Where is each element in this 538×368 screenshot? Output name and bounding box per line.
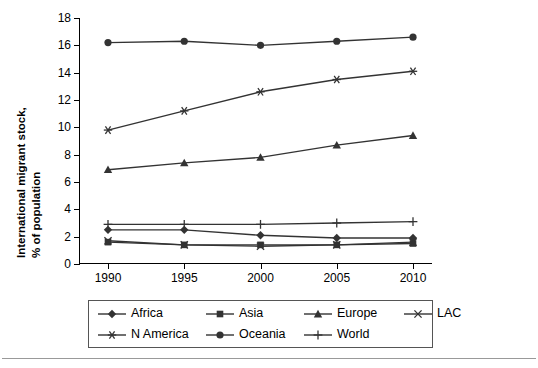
square-marker-icon xyxy=(257,242,264,249)
square-marker-icon xyxy=(410,240,417,247)
asterisk-marker-icon xyxy=(256,88,264,95)
legend-item-label: LAC xyxy=(437,307,461,320)
asterisk-marker-icon xyxy=(409,68,417,75)
square-marker-icon xyxy=(105,239,112,246)
y-axis-tick-label: 12 xyxy=(58,94,71,106)
plus-marker-icon xyxy=(409,217,418,226)
plus xyxy=(303,328,333,342)
y-axis-tick-label: 8 xyxy=(64,149,71,161)
circle-marker-icon xyxy=(181,38,188,45)
asterisk-marker-icon xyxy=(180,107,188,114)
diamond xyxy=(97,307,127,321)
cross-x xyxy=(403,307,433,321)
y-axis-tick-label: 16 xyxy=(58,39,71,51)
y-axis-tick-label: 14 xyxy=(58,67,71,79)
series-line xyxy=(108,136,413,170)
y-axis-tick-label: 2 xyxy=(64,231,71,243)
chart-figure: International migrant stock, % of popula… xyxy=(0,0,538,368)
diamond-marker-icon xyxy=(333,234,341,242)
asterisk-marker-icon xyxy=(333,76,341,83)
series-oceania xyxy=(104,34,416,49)
plus-marker-icon xyxy=(180,220,189,229)
y-axis-title: International migrant stock, % of popula… xyxy=(0,0,44,270)
legend-item-label: Africa xyxy=(131,307,163,320)
series-world xyxy=(104,217,418,229)
series-layer xyxy=(80,18,433,264)
y-axis-tick xyxy=(74,264,80,265)
legend-item-label: Oceania xyxy=(239,328,286,341)
y-axis-tick-label: 6 xyxy=(64,176,71,188)
legend-item-label: Asia xyxy=(239,307,263,320)
x-axis-tick-label: 2005 xyxy=(323,272,350,284)
y-axis-title-line-1: International migrant stock, xyxy=(14,107,29,258)
diamond-marker-icon xyxy=(256,231,264,239)
legend-item-world[interactable]: World xyxy=(303,328,403,342)
plot-area: 02468101214161819901995200020052010 xyxy=(79,18,432,264)
legend-item-n-america[interactable]: N America xyxy=(97,328,205,342)
diamond-marker-icon xyxy=(108,309,116,317)
circle-marker-icon xyxy=(333,38,340,45)
circle xyxy=(205,328,235,342)
square xyxy=(205,307,235,321)
y-axis-tick-label: 0 xyxy=(64,258,71,270)
series-line xyxy=(108,71,413,130)
legend-item-label: Europe xyxy=(337,307,377,320)
y-axis-tick-label: 4 xyxy=(64,203,71,215)
legend-item-asia[interactable]: Asia xyxy=(205,307,303,321)
circle-marker-icon xyxy=(104,39,111,46)
triangle xyxy=(303,307,333,321)
circle-marker-icon xyxy=(409,34,416,41)
series-n-america xyxy=(104,68,417,134)
asterisk-marker-icon xyxy=(108,331,116,338)
footer-divider xyxy=(2,358,536,359)
legend-item-label: N America xyxy=(131,328,189,341)
x-axis-tick-label: 1995 xyxy=(171,272,198,284)
square-marker-icon xyxy=(217,310,224,317)
y-axis-title-line-2: % of population xyxy=(29,172,44,258)
chart-legend: AfricaAsiaEuropeLACN AmericaOceaniaWorld xyxy=(88,300,433,348)
plus-marker-icon xyxy=(314,330,323,339)
y-axis-tick-label: 18 xyxy=(58,12,71,24)
legend-item-europe[interactable]: Europe xyxy=(303,307,403,321)
plus-marker-icon xyxy=(256,220,265,229)
x-axis-tick-label: 2000 xyxy=(247,272,274,284)
y-axis-tick-label: 10 xyxy=(58,121,71,133)
legend-item-africa[interactable]: Africa xyxy=(97,307,205,321)
legend-item-label: World xyxy=(337,328,369,341)
legend-item-lac[interactable]: LAC xyxy=(403,307,461,321)
circle-marker-icon xyxy=(257,42,264,49)
asterisk-marker-icon xyxy=(104,126,112,133)
plus-marker-icon xyxy=(104,220,113,229)
x-axis-tick-label: 1990 xyxy=(95,272,122,284)
plus-marker-icon xyxy=(332,219,341,228)
asterisk xyxy=(97,328,127,342)
legend-item-oceania[interactable]: Oceania xyxy=(205,328,303,342)
x-axis-tick-label: 2010 xyxy=(400,272,427,284)
circle-marker-icon xyxy=(216,331,223,338)
triangle-marker-icon xyxy=(409,131,417,139)
series-europe xyxy=(104,131,417,173)
